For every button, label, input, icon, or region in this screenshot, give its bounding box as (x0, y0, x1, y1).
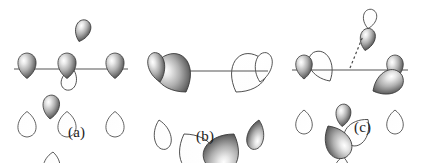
panel-label-a: (a) (68, 124, 85, 141)
lobe-lower-right-small-shaded (245, 118, 267, 151)
orbital-figure: (a) (b) (c) (0, 0, 421, 163)
lobe-right-shaded-up (106, 53, 124, 79)
lobe-left-open-down (18, 112, 36, 138)
lobe-lower-open-down (43, 151, 62, 163)
panel-label-c: (c) (354, 119, 371, 136)
lobe-lower-shaded-up (42, 94, 61, 119)
lobe-lower-left-small-open (151, 118, 173, 151)
lobe-tilted-shaded-up (72, 18, 93, 44)
lobe-vertical-shaded (358, 27, 377, 52)
lobe-right-open-down (106, 112, 124, 138)
lobe-right-open-down (387, 110, 404, 134)
lobe-left-open-down (296, 110, 313, 134)
lobe-left-shaded-up (18, 53, 36, 79)
lobe-left-shaded-up (296, 55, 313, 79)
panel-label-b: (b) (196, 128, 214, 145)
panel-c (280, 0, 421, 163)
lobe-vertical-open (361, 8, 377, 29)
panel-c-drawing (280, 0, 421, 163)
lobe-bottom-shaded (335, 103, 352, 127)
